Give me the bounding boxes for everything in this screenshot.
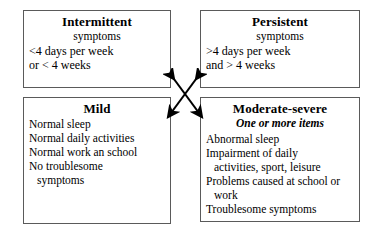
box-intermittent-lines: <4 days per week or < 4 weeks <box>29 44 165 72</box>
list-item-continuation: symptoms <box>29 173 165 187</box>
list-item: Impairment of daily <box>206 146 354 160</box>
severity-classification-diagram: Intermittent symptoms <4 days per week o… <box>0 0 383 236</box>
box-intermittent-subheading: symptoms <box>29 29 165 43</box>
box-persistent-lines: >4 days per week and > 4 weeks <box>206 44 354 72</box>
box-moderate-severe: Moderate-severe One or more items Abnorm… <box>200 97 360 222</box>
list-item-continuation: work <box>206 188 354 202</box>
box-moderate-severe-content: Moderate-severe One or more items Abnorm… <box>201 98 359 218</box>
list-item: Normal sleep <box>29 117 165 131</box>
box-mild-heading: Mild <box>29 101 165 116</box>
list-item: Normal work an school <box>29 145 165 159</box>
list-item: Abnormal sleep <box>206 132 354 146</box>
box-persistent-heading: Persistent <box>206 14 354 29</box>
list-item-continuation: activities, sport, leisure <box>206 160 354 174</box>
box-intermittent-content: Intermittent symptoms <4 days per week o… <box>24 11 170 74</box>
list-item: >4 days per week <box>206 44 354 58</box>
list-item: Troublesome symptoms <box>206 202 354 216</box>
box-mild: Mild Normal sleep Normal daily activitie… <box>23 97 171 224</box>
list-item: Normal daily activities <box>29 131 165 145</box>
list-item: Problems caused at school or <box>206 174 354 188</box>
box-moderate-severe-heading: Moderate-severe <box>206 101 354 116</box>
box-persistent: Persistent symptoms >4 days per week and… <box>200 10 360 88</box>
double-headed-cross-arrows-icon <box>163 68 207 120</box>
list-item: No troublesome <box>29 159 165 173</box>
box-persistent-subheading: symptoms <box>206 29 354 43</box>
box-moderate-severe-subheading: One or more items <box>206 116 354 131</box>
box-mild-content: Mild Normal sleep Normal daily activitie… <box>24 98 170 189</box>
list-item: <4 days per week <box>29 44 165 58</box>
box-moderate-severe-lines: Abnormal sleep Impairment of daily activ… <box>206 132 354 216</box>
list-item: or < 4 weeks <box>29 58 165 72</box>
box-intermittent: Intermittent symptoms <4 days per week o… <box>23 10 171 88</box>
box-intermittent-heading: Intermittent <box>29 14 165 29</box>
box-mild-lines: Normal sleep Normal daily activities Nor… <box>29 117 165 187</box>
box-persistent-content: Persistent symptoms >4 days per week and… <box>201 11 359 74</box>
list-item: and > 4 weeks <box>206 58 354 72</box>
